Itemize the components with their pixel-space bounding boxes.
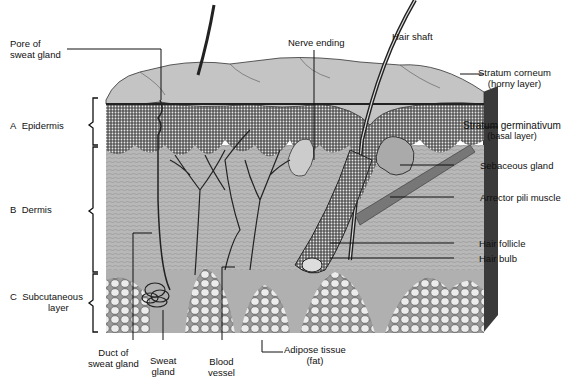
label-adipose-line2: (fat)	[284, 355, 346, 366]
label-stratum-corneum: Stratum corneum (horny layer)	[478, 67, 551, 89]
label-stratum-corneum-line1: Stratum corneum	[478, 67, 551, 78]
label-blood-vessel: Blood vessel	[208, 356, 235, 378]
label-stratum-germinativum: Stratum germinativum (basal layer)	[463, 120, 561, 142]
label-layer-b: B Dermis	[10, 204, 52, 215]
label-sweat-gland: Sweat gland	[150, 355, 176, 377]
layer-name: Dermis	[22, 204, 52, 215]
label-duct-line2: sweat gland	[88, 358, 139, 369]
label-hair-follicle: Hair follicle	[479, 238, 525, 249]
label-duct-sweat-gland: Duct of sweat gland	[88, 347, 139, 369]
label-layer-a: A Epidermis	[10, 120, 64, 131]
label-pore-line1: Pore of	[10, 38, 61, 49]
hair-bulb	[302, 258, 322, 272]
label-adipose-tissue: Adipose tissue (fat)	[284, 344, 346, 366]
label-layer-c: C Subcutaneous	[10, 291, 83, 302]
layer-name: Subcutaneous	[22, 291, 83, 302]
label-arrector-pili: Arrector pili muscle	[480, 192, 561, 203]
label-sweat-gland-line2: gland	[150, 366, 176, 377]
layer-letter: A	[10, 120, 16, 131]
label-stratum-germ-line2: (basal layer)	[463, 131, 561, 142]
label-stratum-corneum-line2: (horny layer)	[478, 78, 551, 89]
label-blood-vessel-line2: vessel	[208, 367, 235, 378]
layer-letter: C	[10, 291, 17, 302]
label-adipose-line1: Adipose tissue	[284, 344, 346, 355]
label-sebaceous-gland: Sebaceous gland	[480, 160, 553, 171]
label-stratum-germ-line1: Stratum germinativum	[463, 120, 561, 131]
label-hair-bulb: Hair bulb	[479, 253, 517, 264]
layer-braces	[89, 98, 98, 332]
label-hair-shaft: Hair shaft	[392, 31, 433, 42]
label-layer-c-line2: layer	[48, 302, 69, 313]
label-duct-line1: Duct of	[88, 347, 139, 358]
layer-name: Epidermis	[22, 120, 64, 131]
label-pore: Pore of sweat gland	[10, 38, 61, 60]
label-pore-line2: sweat gland	[10, 49, 61, 60]
label-nerve-ending: Nerve ending	[288, 37, 345, 48]
layer-letter: B	[10, 204, 16, 215]
label-blood-vessel-line1: Blood	[208, 356, 235, 367]
label-sweat-gland-line1: Sweat	[150, 355, 176, 366]
